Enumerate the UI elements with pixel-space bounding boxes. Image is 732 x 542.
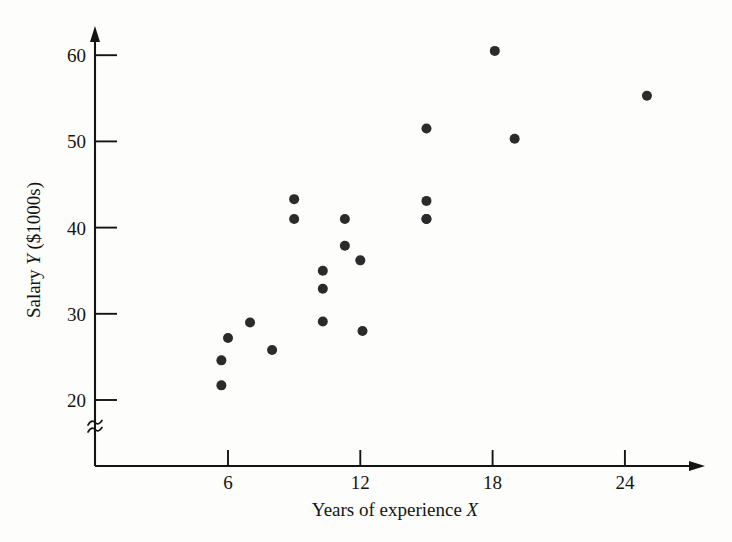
axes <box>88 26 705 471</box>
data-point <box>216 355 226 365</box>
data-point <box>289 194 299 204</box>
data-points-layer <box>216 46 652 390</box>
data-point <box>318 284 328 294</box>
data-point <box>421 214 431 224</box>
data-point <box>355 255 365 265</box>
data-point <box>318 266 328 276</box>
plot-canvas: 2030405060 6121824 Salary Y ($1000s) Yea… <box>0 0 732 542</box>
y-tick-label: 60 <box>67 45 86 66</box>
x-tick-label: 12 <box>351 472 370 493</box>
data-point <box>289 214 299 224</box>
data-point <box>223 333 233 343</box>
y-tick-label: 30 <box>67 304 86 325</box>
x-axis-ticks: 6121824 <box>223 450 635 493</box>
x-axis-title-symbol: X <box>466 499 480 520</box>
x-tick-label: 18 <box>483 472 502 493</box>
y-axis-ticks: 2030405060 <box>67 45 117 411</box>
data-point <box>267 345 277 355</box>
y-axis-title: Salary Y ($1000s) <box>23 182 45 318</box>
y-axis-title-suffix: ($1000s) <box>23 182 45 250</box>
y-tick-label: 40 <box>67 218 86 239</box>
data-point <box>510 134 520 144</box>
data-point <box>421 123 431 133</box>
data-point <box>642 91 652 101</box>
y-axis-title-prefix: Salary <box>23 269 44 318</box>
data-point <box>490 46 500 56</box>
y-tick-label: 50 <box>67 131 86 152</box>
x-axis-title: Years of experience X <box>312 499 480 520</box>
data-point <box>318 317 328 327</box>
x-tick-label: 24 <box>615 472 635 493</box>
y-tick-label: 20 <box>67 390 86 411</box>
x-axis-arrowhead <box>689 461 705 471</box>
data-point <box>245 317 255 327</box>
x-tick-label: 6 <box>223 472 233 493</box>
scatter-plot-figure: 2030405060 6121824 Salary Y ($1000s) Yea… <box>0 0 732 542</box>
data-point <box>340 241 350 251</box>
y-axis-arrowhead <box>90 26 100 42</box>
x-axis-title-text: Years of experience <box>312 499 462 520</box>
data-point <box>358 326 368 336</box>
data-point <box>340 214 350 224</box>
data-point <box>421 196 431 206</box>
data-point <box>216 380 226 390</box>
